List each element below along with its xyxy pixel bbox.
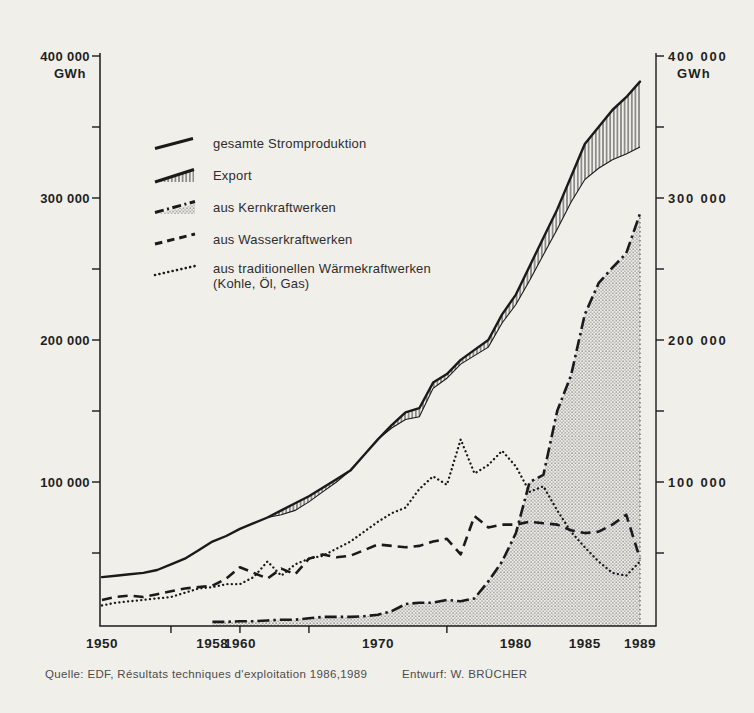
x-tick-label: 1985 [569,636,601,651]
x-tick-label: 1980 [500,636,532,651]
legend-label-hydro: aus Wasserkraftwerken [213,232,353,247]
legend-item-thermal: aus traditionellen Wärmekraftwerken (Koh… [152,261,431,291]
legend-label-total: gesamte Stromproduktion [213,136,366,151]
y-tick-label-right: 300 000 [668,191,728,206]
x-tick-label: 1950 [86,636,118,651]
legend-item-hydro: aus Wasserkraftwerken [152,229,431,249]
x-tick-label: 1989 [624,636,656,651]
legend-label-thermal: aus traditionellen Wärmekraftwerken [213,261,431,276]
dashed-line-swatch-icon [152,229,198,249]
x-tick-label: 1970 [362,636,394,651]
legend-label-export: Export [213,168,252,183]
hatched-triangle-swatch-icon [152,165,198,185]
legend-item-export: Export [152,165,431,185]
chart-canvas: 100 000100 000200 000200 000300 000300 0… [0,0,754,713]
y-tick-label-left: 100 000 [40,475,90,490]
source-note: Quelle: EDF, Résultats techniques d'expl… [45,668,367,680]
y-tick-label-left: 300 000 [40,191,90,206]
dashdot-stipple-swatch-icon [152,197,198,217]
y-tick-label-left: 200 000 [40,333,90,348]
figure: 100 000100 000200 000200 000300 000300 0… [0,0,754,713]
dotted-line-swatch-icon [152,261,198,281]
legend-item-total-production: gesamte Stromproduktion [152,133,431,153]
y-tick-label-right: 400 000 [668,49,728,64]
solid-line-swatch-icon [152,133,198,153]
credit-note: Entwurf: W. BRÜCHER [402,668,528,680]
y-axis-unit-left: GWh [54,66,86,81]
x-tick-label: 1960 [224,636,256,651]
y-tick-label-right: 100 000 [668,475,728,490]
y-tick-label-right: 200 000 [668,333,728,348]
legend-label-thermal-fuels: (Kohle, Öl, Gas) [213,276,431,291]
legend-item-nuclear: aus Kernkraftwerken [152,197,431,217]
y-axis-unit-right: GWh [677,66,711,81]
y-tick-label-left: 400 000 [40,49,90,64]
legend: gesamte Stromproduktion Export aus Kernk… [152,133,431,291]
legend-label-nuclear: aus Kernkraftwerken [213,200,336,215]
